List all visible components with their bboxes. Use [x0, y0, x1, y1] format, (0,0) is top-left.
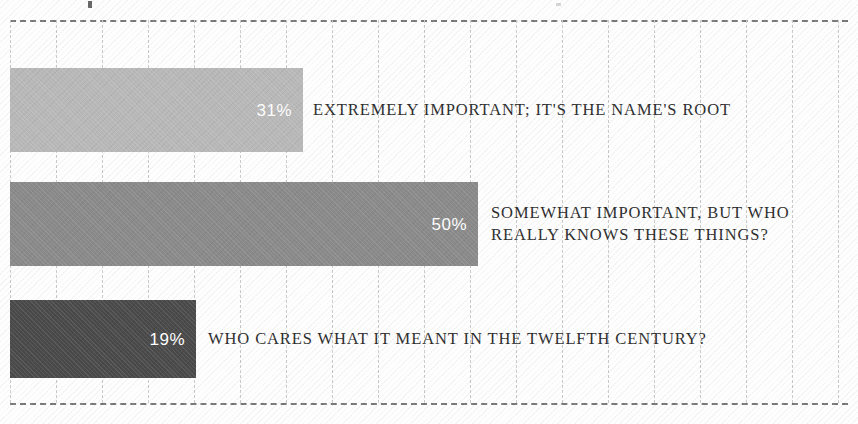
- bar-category-label: WHO CARES WHAT IT MEANT IN THE TWELFTH C…: [208, 328, 707, 350]
- bar-rect: 31%: [10, 68, 303, 152]
- bar-series: 31%EXTREMELY IMPORTANT; IT'S THE NAME'S …: [10, 20, 848, 403]
- plot-frame-bottom-border: [10, 403, 848, 405]
- bar-rect: 50%: [10, 182, 478, 266]
- bar-row: 31%EXTREMELY IMPORTANT; IT'S THE NAME'S …: [10, 68, 848, 152]
- page-artifact-speck-secondary: [556, 3, 561, 6]
- bar-value-label: 50%: [431, 216, 467, 233]
- bar-row: 19%WHO CARES WHAT IT MEANT IN THE TWELFT…: [10, 300, 848, 378]
- bar-value-label: 31%: [256, 102, 292, 119]
- bar-rect: 19%: [10, 300, 196, 378]
- bar-chart: 31%EXTREMELY IMPORTANT; IT'S THE NAME'S …: [0, 0, 858, 424]
- bar-category-label: EXTREMELY IMPORTANT; IT'S THE NAME'S ROO…: [313, 99, 731, 121]
- bar-row: 50%SOMEWHAT IMPORTANT, BUT WHO REALLY KN…: [10, 182, 848, 266]
- page-artifact-speck: [88, 1, 92, 8]
- bar-category-label: SOMEWHAT IMPORTANT, BUT WHO REALLY KNOWS…: [491, 202, 790, 247]
- bar-value-label: 19%: [149, 331, 185, 348]
